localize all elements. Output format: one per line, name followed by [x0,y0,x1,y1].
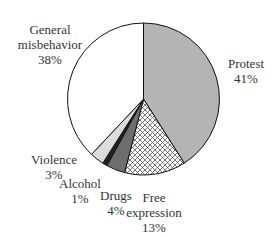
label-pct: 41% [222,71,270,86]
label-general-misbehavior: General misbehavior 38% [14,22,86,67]
label-name: Alcohol [58,176,102,191]
label-name: Protest [222,56,270,71]
label-free-expression: Free expression 13% [122,190,186,235]
label-pct: 1% [58,191,102,206]
label-alcohol: Alcohol 1% [58,176,102,206]
label-pct: 38% [14,52,86,67]
label-name: Free [122,190,186,205]
label-name: General [14,22,86,37]
label-name: misbehavior [14,37,86,52]
label-name: Violence [30,152,78,167]
label-protest: Protest 41% [222,56,270,86]
label-name: expression [122,205,186,220]
label-pct: 13% [122,220,186,235]
